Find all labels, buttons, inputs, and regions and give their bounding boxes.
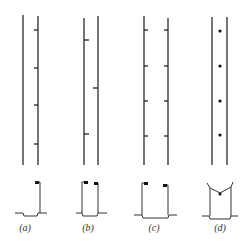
panel-c: (c) (134, 16, 177, 234)
panel-d: (d) (202, 17, 238, 234)
panel-d-label: (d) (214, 222, 226, 234)
panel-b-schematic (76, 181, 107, 216)
panel-c-label: (c) (148, 222, 160, 234)
panel-a: (a) (15, 15, 47, 234)
panel-d-dot (218, 29, 221, 32)
panel-c-schematic (134, 182, 177, 218)
panel-b: (b) (76, 16, 107, 234)
panel-b-label: (b) (82, 222, 94, 234)
panel-d-dot (218, 64, 221, 67)
panel-a-schematic (15, 181, 47, 216)
panel-d-schematic (202, 182, 238, 219)
panel-d-dot (218, 99, 221, 102)
panel-d-dot (218, 133, 221, 136)
panel-a-label: (a) (19, 222, 31, 234)
diagram-canvas: (a) (b) (0, 0, 244, 243)
